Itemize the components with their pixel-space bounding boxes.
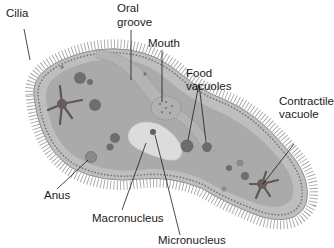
label-oral-groove-line2: groove [117,16,152,29]
label-food-vacuoles-line2: vacuoles [186,80,231,93]
micronucleus [150,129,156,135]
label-macronucleus: Macronucleus [92,212,164,225]
food-vacuole [203,143,212,152]
label-mouth: Mouth [148,37,180,50]
label-micronucleus: Micronucleus [158,234,226,247]
food-vacuole [181,140,193,152]
label-contractile-vacuole-line2: vacuole [279,108,319,121]
label-oral-groove-line1: Oral [117,2,139,15]
label-cilia: Cilia [6,7,28,20]
label-food-vacuoles-line1: Food [186,67,212,80]
label-anus: Anus [44,189,70,202]
label-contractile-vacuole-line1: Contractile [279,95,334,108]
